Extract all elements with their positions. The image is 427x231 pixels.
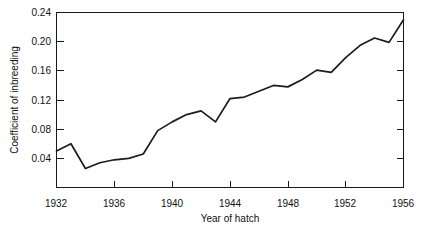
y-tick-label: 0.20	[32, 36, 52, 47]
x-axis-title: Year of hatch	[201, 213, 260, 224]
chart-figure: 0.24 0.20 0.16 0.12 0.08 0.04 1932 1936 …	[0, 0, 427, 231]
x-axis-ticks	[57, 181, 404, 188]
y-tick-label: 0.24	[32, 7, 52, 18]
x-tick-label: 1932	[45, 198, 68, 209]
x-tick-label: 1956	[392, 198, 415, 209]
x-axis-tick-labels: 1932 1936 1940 1944 1948 1952 1956	[45, 198, 415, 209]
data-series-line	[57, 20, 404, 169]
line-chart: 0.24 0.20 0.16 0.12 0.08 0.04 1932 1936 …	[0, 0, 427, 231]
x-tick-label: 1948	[277, 198, 300, 209]
x-tick-label: 1944	[219, 198, 242, 209]
y-axis-ticks	[57, 13, 404, 159]
x-tick-label: 1936	[103, 198, 126, 209]
y-tick-label: 0.04	[32, 153, 52, 164]
y-tick-label: 0.12	[32, 95, 52, 106]
x-tick-label: 1952	[334, 198, 357, 209]
x-tick-label: 1940	[161, 198, 184, 209]
y-axis-tick-labels: 0.24 0.20 0.16 0.12 0.08 0.04	[32, 7, 52, 164]
y-tick-label: 0.16	[32, 65, 52, 76]
y-tick-label: 0.08	[32, 124, 52, 135]
y-axis-title: Coefficient of inbreeding	[9, 46, 20, 154]
